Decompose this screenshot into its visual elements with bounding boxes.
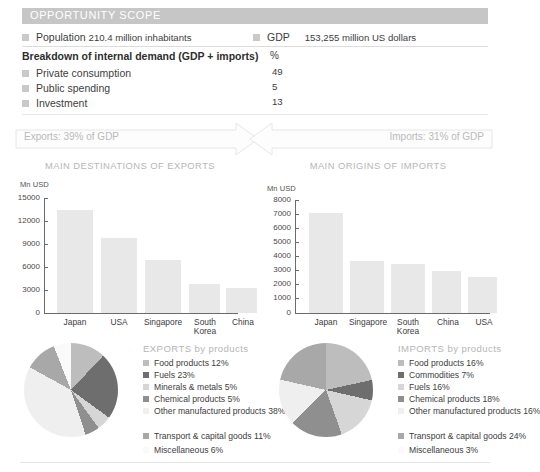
legend-label: Fuels 23%: [154, 370, 195, 380]
bar-china: [226, 288, 257, 313]
bar-singapore: [350, 261, 384, 313]
legend-item: Other manufactured products 16%: [398, 405, 540, 416]
imports-share-label: Imports: 31% of GDP: [390, 131, 484, 142]
fact-gdp: GDP 153,255 million US dollars: [253, 30, 416, 43]
breakdown-item-label: Private consumption: [36, 67, 131, 79]
page-title: OPPORTUNITY SCOPE: [30, 9, 161, 21]
bullet-square-icon: [22, 70, 29, 77]
breakdown-title: Breakdown of internal demand (GDP + impo…: [22, 50, 258, 62]
legend-label: Miscellaneous 6%: [154, 445, 223, 455]
fact-gdp-value: 153,255 million US dollars: [305, 32, 416, 43]
bullet-square-icon: [22, 34, 29, 41]
legend-item: Miscellaneous 6%: [143, 444, 223, 455]
legend-label: Minerals & metals 5%: [154, 382, 237, 392]
breakdown-item-public-spending: Public spending: [22, 81, 110, 94]
bar-south-korea: [189, 284, 220, 313]
legend-swatch-icon: [398, 360, 404, 366]
legend-label: Chemical products 5%: [154, 394, 240, 404]
bar-china: [432, 271, 461, 313]
legend-label: Commodities 7%: [409, 370, 474, 380]
legend-label: Miscellaneous 3%: [409, 445, 478, 455]
y-tick-label: 3000: [0, 285, 40, 294]
bullet-square-icon: [22, 100, 29, 107]
exports-destinations-chart: Mn USD 15000 12000 9000 6000 3000 0 Japa…: [0, 178, 250, 333]
legend-item: Commodities 7%: [398, 369, 474, 380]
fact-gdp-label: GDP: [267, 31, 290, 43]
exports-share-label: Exports: 39% of GDP: [24, 131, 119, 142]
y-axis: [44, 198, 45, 313]
breakdown-item-value: 5: [272, 81, 277, 92]
legend-item: Transport & capital goods 11%: [143, 430, 271, 441]
legend-swatch-icon: [143, 360, 149, 366]
legend-swatch-icon: [398, 372, 404, 378]
legend-item: Miscellaneous 3%: [398, 444, 478, 455]
x-tick-label: South Korea: [387, 318, 429, 336]
legend-item: Food products 12%: [143, 357, 229, 368]
y-axis-unit-label: Mn USD: [20, 180, 49, 189]
bar-singapore: [145, 260, 181, 313]
bullet-square-icon: [22, 85, 29, 92]
exports-pie-chart: [24, 343, 118, 437]
legend-swatch-icon: [398, 447, 404, 453]
legend-item: Fuels 23%: [143, 369, 195, 380]
legend-item: Transport & capital goods 24%: [398, 430, 526, 441]
footer-divider: [20, 462, 490, 463]
imports-legend-title: IMPORTS by products: [398, 343, 501, 354]
y-tick-label: 0: [0, 308, 40, 317]
imports-origins-chart: Mn USD 8000 7000 6000 5000 4000 3000 200…: [255, 178, 507, 333]
y-tick-label: 9000: [0, 239, 40, 248]
legend-label: Chemical products 18%: [409, 394, 500, 404]
breakdown-item-label: Public spending: [36, 82, 110, 94]
x-tick-label: Japan: [50, 318, 100, 327]
y-tick-label: 1000: [255, 293, 291, 302]
y-tick-label: 4000: [255, 251, 291, 260]
breakdown-item-investment: Investment: [22, 96, 87, 109]
legend-label: Food products 12%: [154, 358, 229, 368]
exports-legend-title: EXPORTS by products: [143, 343, 249, 354]
trade-flow-arrows: Exports: 39% of GDP Imports: 31% of GDP: [14, 122, 494, 156]
scope-header-band: OPPORTUNITY SCOPE: [22, 8, 488, 24]
y-tick-label: 15000: [0, 193, 40, 202]
legend-swatch-icon: [398, 408, 404, 414]
breakdown-item-value: 13: [272, 96, 283, 107]
x-tick-label: USA: [463, 318, 505, 327]
fact-population-label: Population: [36, 31, 86, 43]
legend-label: Transport & capital goods 11%: [154, 431, 271, 441]
imports-pie-chart: [279, 343, 373, 437]
bar-usa: [468, 277, 497, 313]
legend-swatch-icon: [143, 396, 149, 402]
legend-label: Other manufactured products 16%: [409, 406, 540, 416]
breakdown-item-label: Investment: [36, 97, 87, 109]
legend-item: Chemical products 18%: [398, 393, 500, 404]
legend-label: Food products 16%: [409, 358, 484, 368]
fact-population-value: 210.4 million inhabitants: [89, 32, 192, 43]
legend-item: Chemical products 5%: [143, 393, 240, 404]
legend-item: Minerals & metals 5%: [143, 381, 237, 392]
y-tick-label: 8000: [255, 195, 291, 204]
bar-usa: [101, 238, 137, 313]
legend-label: Other manufactured products 38%: [154, 406, 285, 416]
y-tick-label: 6000: [255, 223, 291, 232]
legend-label: Transport & capital goods 24%: [409, 431, 526, 441]
legend-swatch-icon: [143, 372, 149, 378]
fact-population: Population 210.4 million inhabitants: [22, 30, 191, 43]
legend-item: Food products 16%: [398, 357, 484, 368]
bar-japan: [57, 210, 93, 313]
legend-swatch-icon: [143, 408, 149, 414]
y-tick-label: 6000: [0, 262, 40, 271]
x-tick-label: Singapore: [136, 318, 190, 327]
y-tick-label: 3000: [255, 265, 291, 274]
y-tick-label: 7000: [255, 209, 291, 218]
y-tick-label: 0: [255, 308, 291, 317]
imports-section-title: MAIN ORIGINS OF IMPORTS: [268, 160, 488, 171]
x-axis: [44, 313, 238, 314]
legend-label: Fuels 16%: [409, 382, 450, 392]
y-tick-label: 5000: [255, 237, 291, 246]
legend-item: Fuels 16%: [398, 381, 450, 392]
legend-swatch-icon: [398, 433, 404, 439]
divider: [22, 114, 488, 115]
legend-swatch-icon: [398, 396, 404, 402]
breakdown-item-private-consumption: Private consumption: [22, 66, 131, 79]
y-tick-label: 12000: [0, 216, 40, 225]
